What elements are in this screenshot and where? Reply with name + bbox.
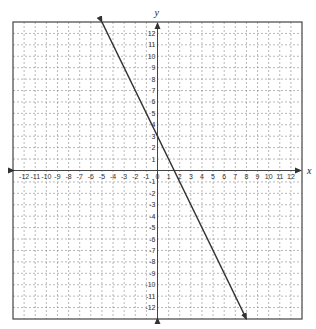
y-tick-label: 7: [152, 87, 156, 94]
x-tick-label: 7: [233, 173, 237, 180]
x-tick-label: 4: [200, 173, 204, 180]
x-tick-label: -5: [99, 173, 105, 180]
x-tick-label: 9: [256, 173, 260, 180]
x-tick-label: 5: [211, 173, 215, 180]
x-tick-label: -4: [110, 173, 116, 180]
y-tick-label: 3: [152, 133, 156, 140]
y-axis-label: y: [154, 7, 160, 18]
x-tick-label: 8: [244, 173, 248, 180]
x-tick-label: -8: [65, 173, 71, 180]
x-tick-label: 3: [189, 173, 193, 180]
x-tick-label: 12: [287, 173, 295, 180]
x-tick-label: 6: [222, 173, 226, 180]
y-tick-label: -12: [145, 304, 155, 311]
y-tick-label: -8: [149, 258, 155, 265]
x-tick-label: -12: [19, 173, 29, 180]
y-tick-label: -7: [149, 247, 155, 254]
x-tick-label: -10: [41, 173, 51, 180]
x-tick-label: 11: [276, 173, 283, 180]
y-tick-label: 2: [152, 144, 156, 151]
coordinate-plane: -12-11-10-9-8-7-6-5-4-3-2-10123456789101…: [0, 0, 316, 329]
y-tick-label: 8: [152, 76, 156, 83]
y-tick-label: -2: [149, 190, 155, 197]
x-tick-label: -11: [30, 173, 40, 180]
x-tick-label: 10: [265, 173, 273, 180]
y-tick-label: -10: [145, 281, 155, 288]
y-tick-label: 5: [152, 110, 156, 117]
y-tick-label: -1: [149, 178, 155, 185]
y-tick-label: -11: [146, 293, 156, 300]
x-tick-label: 1: [167, 173, 171, 180]
y-tick-label: -4: [149, 213, 155, 220]
x-tick-label: -6: [88, 173, 94, 180]
x-tick-label: 0: [156, 173, 160, 180]
y-tick-label: 6: [152, 98, 156, 105]
y-tick-label: 1: [152, 156, 156, 163]
y-tick-label: 11: [148, 41, 155, 48]
x-tick-label: -2: [132, 173, 138, 180]
x-tick-label: -9: [54, 173, 60, 180]
y-tick-label: -5: [149, 224, 155, 231]
x-axis-label: x: [306, 165, 312, 176]
x-tick-label: -7: [77, 173, 83, 180]
axes: [14, 23, 301, 318]
x-tick-label: -3: [121, 173, 127, 180]
y-tick-label: -9: [149, 270, 155, 277]
y-tick-label: 9: [152, 64, 156, 71]
y-tick-label: 12: [148, 30, 156, 37]
y-tick-label: -3: [149, 201, 155, 208]
y-tick-label: 10: [148, 53, 156, 60]
y-tick-label: -6: [149, 236, 155, 243]
